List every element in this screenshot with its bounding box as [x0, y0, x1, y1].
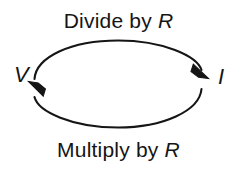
- edge-label-multiply: Multiply by R: [0, 139, 237, 160]
- edge-label-divide-variable: R: [158, 9, 173, 32]
- edge-label-divide: Divide by R: [0, 10, 237, 31]
- edge-label-multiply-text: Multiply by: [57, 138, 164, 161]
- node-label-voltage: V: [14, 64, 29, 86]
- arc-divide-by-r: [35, 41, 202, 80]
- edge-label-multiply-variable: R: [165, 138, 180, 161]
- arc-multiply-by-r: [35, 89, 202, 128]
- cycle-diagram: Divide by R Multiply by R V I: [0, 0, 237, 174]
- arrowhead-to-voltage-icon: [29, 82, 46, 97]
- node-label-current: I: [218, 66, 224, 88]
- edge-label-divide-text: Divide by: [64, 9, 158, 32]
